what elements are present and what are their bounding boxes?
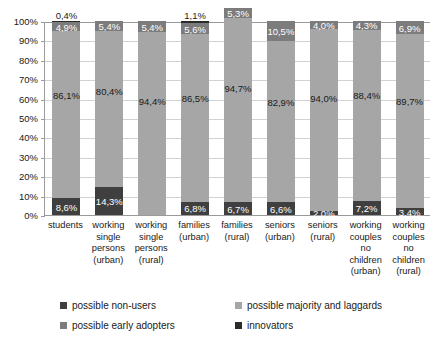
bar-segment (224, 18, 252, 202)
y-axis-tick-label: 100% (0, 17, 38, 27)
legend-item[interactable]: possible early adopters (60, 320, 175, 332)
bar-value-label: 6,9% (381, 24, 439, 34)
chart-legend: possible non-userspossible majority and … (60, 300, 400, 338)
bar-column[interactable] (310, 22, 338, 215)
bar-column[interactable] (52, 22, 80, 215)
bar-column[interactable] (396, 22, 424, 215)
x-axis-label-line: (urban) (342, 266, 390, 278)
x-axis-category-label: workingcouplesnochildren(urban) (342, 220, 390, 278)
x-axis-label-line: seniors (299, 220, 347, 232)
bar-segment (52, 31, 80, 198)
legend-item-label: possible non-users (72, 300, 156, 311)
y-axis-tick-label: 0% (0, 211, 38, 221)
y-axis-tick-label: 30% (0, 153, 38, 163)
bar-segment (353, 30, 381, 201)
y-axis-tick-label: 90% (0, 36, 38, 46)
bar-value-label: 5,6% (166, 25, 224, 35)
x-axis-label-line: children (385, 255, 433, 267)
bar-segment (181, 34, 209, 202)
x-axis-label-line: (urban) (256, 232, 304, 244)
y-axis-tick-label: 50% (0, 114, 38, 124)
y-axis-tick-label: 10% (0, 192, 38, 202)
x-axis-label-line: students (41, 220, 89, 232)
x-axis-label-line: seniors (256, 220, 304, 232)
x-axis-label-line: couples (385, 232, 433, 244)
x-axis-label-line: (rural) (385, 266, 433, 278)
x-axis-label-line: no (385, 243, 433, 255)
x-axis-label-line: (rural) (213, 232, 261, 244)
x-axis-category-label: workingcouplesnochildren(rural) (385, 220, 433, 278)
y-axis-tick-label: 20% (0, 172, 38, 182)
bar-segment (310, 29, 338, 211)
bar-value-label: 5,3% (209, 9, 267, 19)
x-axis-category-label: families(urban) (170, 220, 218, 243)
x-axis-category-labels: studentsworkingsinglepersons(urban)worki… (44, 220, 430, 294)
bar-column[interactable] (181, 22, 209, 215)
y-axis-tick-mark (41, 119, 45, 120)
y-axis-tick-label: 70% (0, 75, 38, 85)
y-axis-tick-mark (41, 61, 45, 62)
plot-area: 8,6%86,1%4,9%0,4%14,3%80,4%5,4%94,4%5,4%… (44, 22, 430, 216)
x-axis-label-line: children (342, 255, 390, 267)
legend-item-label: innovators (247, 320, 293, 331)
bar-value-label: 0,4% (37, 11, 95, 21)
bar-value-label: 86,5% (166, 94, 224, 104)
x-axis-label-line: (rural) (299, 232, 347, 244)
x-axis-label-line: working (127, 220, 175, 232)
x-axis-category-label: workingsinglepersons(rural) (127, 220, 175, 266)
bar-value-label: 14,3% (80, 197, 138, 207)
y-axis-tick-mark (41, 138, 45, 139)
bar-value-label: 3,4% (381, 208, 439, 218)
x-axis-label-line: persons (127, 243, 175, 255)
x-axis-label-line: persons (84, 243, 132, 255)
y-axis-tick-mark (41, 80, 45, 81)
legend-swatch-icon (60, 322, 67, 329)
bar-column[interactable] (224, 22, 252, 215)
x-axis-label-line: working (385, 220, 433, 232)
x-axis-label-line: single (127, 232, 175, 244)
bar-column[interactable] (138, 22, 166, 215)
y-axis-tick-mark (41, 158, 45, 159)
bar-segment (267, 41, 295, 202)
bar-segment (95, 31, 123, 187)
bar-value-label: 94,7% (209, 84, 267, 94)
x-axis-category-label: seniors(rural) (299, 220, 347, 243)
bar-value-label: 80,4% (80, 87, 138, 97)
y-axis-tick-mark (41, 197, 45, 198)
legend-swatch-icon (60, 302, 67, 309)
bar-column[interactable] (267, 22, 295, 215)
legend-item[interactable]: possible non-users (60, 300, 156, 312)
legend-item-label: possible majority and laggards (247, 300, 382, 311)
y-axis-tick-mark (41, 177, 45, 178)
legend-item[interactable]: innovators (235, 320, 293, 332)
x-axis-label-line: (urban) (170, 232, 218, 244)
x-axis-label-line: no (342, 243, 390, 255)
y-axis-tick-label: 80% (0, 56, 38, 66)
x-axis-label-line: single (84, 232, 132, 244)
bar-column[interactable] (95, 22, 123, 215)
x-axis-label-line: (rural) (127, 255, 175, 267)
y-axis-tick-label: 40% (0, 133, 38, 143)
bar-value-label: 89,7% (381, 97, 439, 107)
x-axis-category-label: students (41, 220, 89, 232)
y-axis-tick-mark (41, 216, 45, 217)
legend-swatch-icon (235, 302, 242, 309)
legend-item[interactable]: possible majority and laggards (235, 300, 382, 312)
x-axis-label-line: working (342, 220, 390, 232)
x-axis-label-line: families (213, 220, 261, 232)
legend-item-label: possible early adopters (72, 320, 175, 331)
x-axis-label-line: (urban) (84, 255, 132, 267)
y-axis-tick-mark (41, 41, 45, 42)
x-axis-category-label: workingsinglepersons(urban) (84, 220, 132, 266)
x-axis-category-label: seniors(urban) (256, 220, 304, 243)
x-axis-category-label: families(rural) (213, 220, 261, 243)
x-axis-label-line: families (170, 220, 218, 232)
x-axis-label-line: working (84, 220, 132, 232)
bar-segment (138, 32, 166, 215)
stacked-bar-chart: 100%90%80%70%60%50%40%30%20%10%0% 8,6%86… (0, 0, 444, 343)
bar-column[interactable] (353, 22, 381, 215)
y-axis-tick-label: 60% (0, 95, 38, 105)
x-axis-label-line: couples (342, 232, 390, 244)
bar-segment (181, 21, 209, 23)
bar-segment (396, 34, 424, 208)
